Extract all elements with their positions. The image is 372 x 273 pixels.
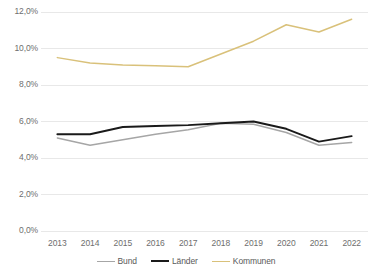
y-tick-label: 6,0% xyxy=(2,117,38,126)
legend-label: Bund xyxy=(118,256,137,266)
series-lines xyxy=(57,19,351,145)
x-tick-label-2020: 2020 xyxy=(270,238,303,252)
y-tick-label: 12,0% xyxy=(2,7,38,16)
legend-label: Länder xyxy=(172,256,198,266)
gridlines xyxy=(41,12,368,231)
legend-item-bund[interactable]: Bund xyxy=(97,256,137,266)
legend-label: Kommunen xyxy=(233,256,276,266)
x-tick-label-2022: 2022 xyxy=(335,238,368,252)
y-axis: 0,0%2,0%4,0%6,0%8,0%10,0%12,0% xyxy=(0,0,38,273)
chart-plot-area xyxy=(0,0,372,273)
series-line-bund xyxy=(57,123,351,145)
chart-legend: BundLänderKommunen xyxy=(0,254,372,268)
x-tick-label-2021: 2021 xyxy=(303,238,336,252)
y-tick-label: 4,0% xyxy=(2,153,38,162)
x-tick-label-2014: 2014 xyxy=(74,238,107,252)
line-chart: 0,0%2,0%4,0%6,0%8,0%10,0%12,0% 201320142… xyxy=(0,0,372,273)
x-tick-label-2013: 2013 xyxy=(41,238,74,252)
legend-swatch-icon xyxy=(151,260,169,262)
x-tick-label-2017: 2017 xyxy=(172,238,205,252)
legend-item-kommunen[interactable]: Kommunen xyxy=(212,256,276,266)
x-tick-label-2019: 2019 xyxy=(237,238,270,252)
y-tick-label: 10,0% xyxy=(2,44,38,53)
x-tick-label-2018: 2018 xyxy=(205,238,238,252)
x-axis: 2013201420152016201720182019202020212022 xyxy=(41,238,368,252)
y-tick-label: 0,0% xyxy=(2,226,38,235)
series-line-länder xyxy=(57,122,351,142)
legend-item-länder[interactable]: Länder xyxy=(151,256,198,266)
legend-swatch-icon xyxy=(212,261,230,262)
y-tick-label: 8,0% xyxy=(2,80,38,89)
x-tick-label-2016: 2016 xyxy=(139,238,172,252)
legend-swatch-icon xyxy=(97,261,115,262)
x-tick-label-2015: 2015 xyxy=(106,238,139,252)
series-line-kommunen xyxy=(57,19,351,66)
y-tick-label: 2,0% xyxy=(2,190,38,199)
